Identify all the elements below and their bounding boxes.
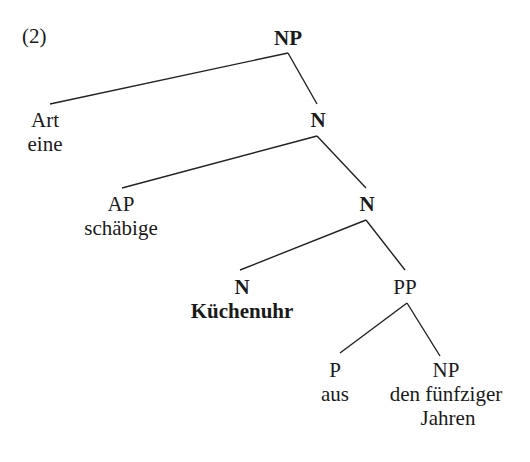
node-p: P (329, 358, 341, 382)
word-jahren: Jahren (421, 406, 476, 430)
word-den-fuenfziger: den fünfziger (390, 382, 503, 406)
node-n3: N (234, 275, 249, 299)
node-np2: NP (433, 358, 460, 382)
word-kuechenuhr: Küchenuhr (191, 299, 294, 323)
edge-pp-np (407, 303, 440, 356)
edge-np-art (50, 53, 288, 104)
edge-n-pp (366, 220, 405, 270)
node-pp: PP (393, 275, 416, 299)
word-schaebige: schäbige (84, 216, 157, 240)
edge-n-n (317, 136, 366, 188)
node-n2: N (359, 192, 374, 216)
node-np-root: NP (274, 26, 302, 50)
edge-np-n (288, 53, 317, 104)
node-n1: N (310, 108, 325, 132)
node-art: Art (31, 108, 59, 132)
word-eine: eine (28, 132, 63, 156)
edge-n-ap (122, 136, 317, 188)
edge-n-n3 (240, 220, 366, 270)
edge-pp-p (340, 303, 407, 353)
word-aus: aus (321, 382, 349, 406)
node-ap: AP (108, 192, 135, 216)
